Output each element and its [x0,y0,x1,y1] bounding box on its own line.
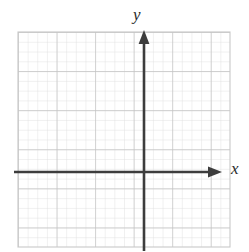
y-axis-label: y [133,6,141,23]
major-gridlines [18,32,230,247]
coordinate-grid-figure: y x [0,0,249,252]
coordinate-plane-svg [0,0,249,252]
x-axis-label: x [231,160,239,177]
